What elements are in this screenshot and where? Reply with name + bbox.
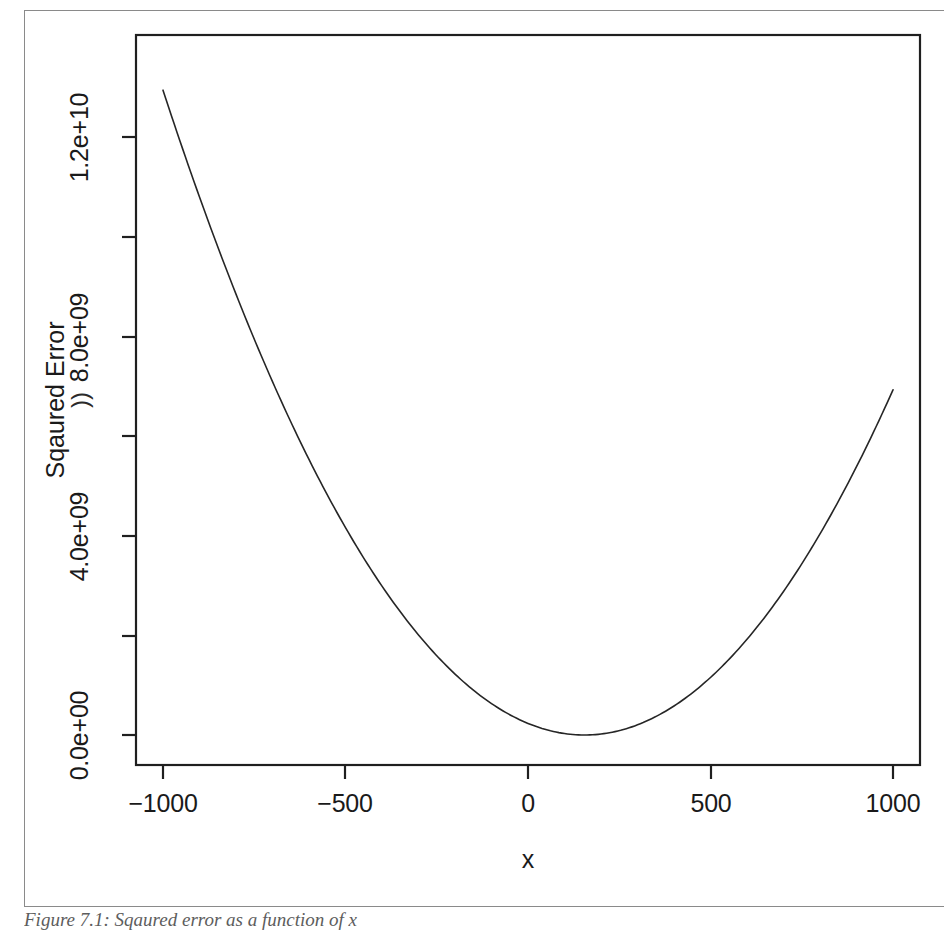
y-axis-title: Sqaured Error — [41, 321, 70, 478]
squared-error-curve — [163, 90, 893, 735]
figure-caption: Figure 7.1: Sqaured error as a function … — [24, 909, 924, 931]
plot-box — [136, 35, 920, 765]
x-axis-title: x — [522, 845, 535, 874]
y-tick-label-text: 4.0e+09 — [66, 491, 95, 581]
x-tick-label: 500 — [690, 789, 731, 818]
x-tick-label: 1000 — [866, 789, 921, 818]
y-tick-label-text: 1.2e+10 — [66, 92, 95, 182]
x-tick-label: −500 — [317, 789, 373, 818]
scan-artifact-glyph: )) — [72, 386, 88, 414]
x-tick-label: 0 — [521, 789, 535, 818]
x-tick-label: −1000 — [128, 789, 197, 818]
y-axis-tick-marks — [122, 137, 136, 735]
y-tick-label-text: 0.0e+00 — [66, 690, 95, 780]
x-axis-tick-marks — [163, 765, 893, 779]
